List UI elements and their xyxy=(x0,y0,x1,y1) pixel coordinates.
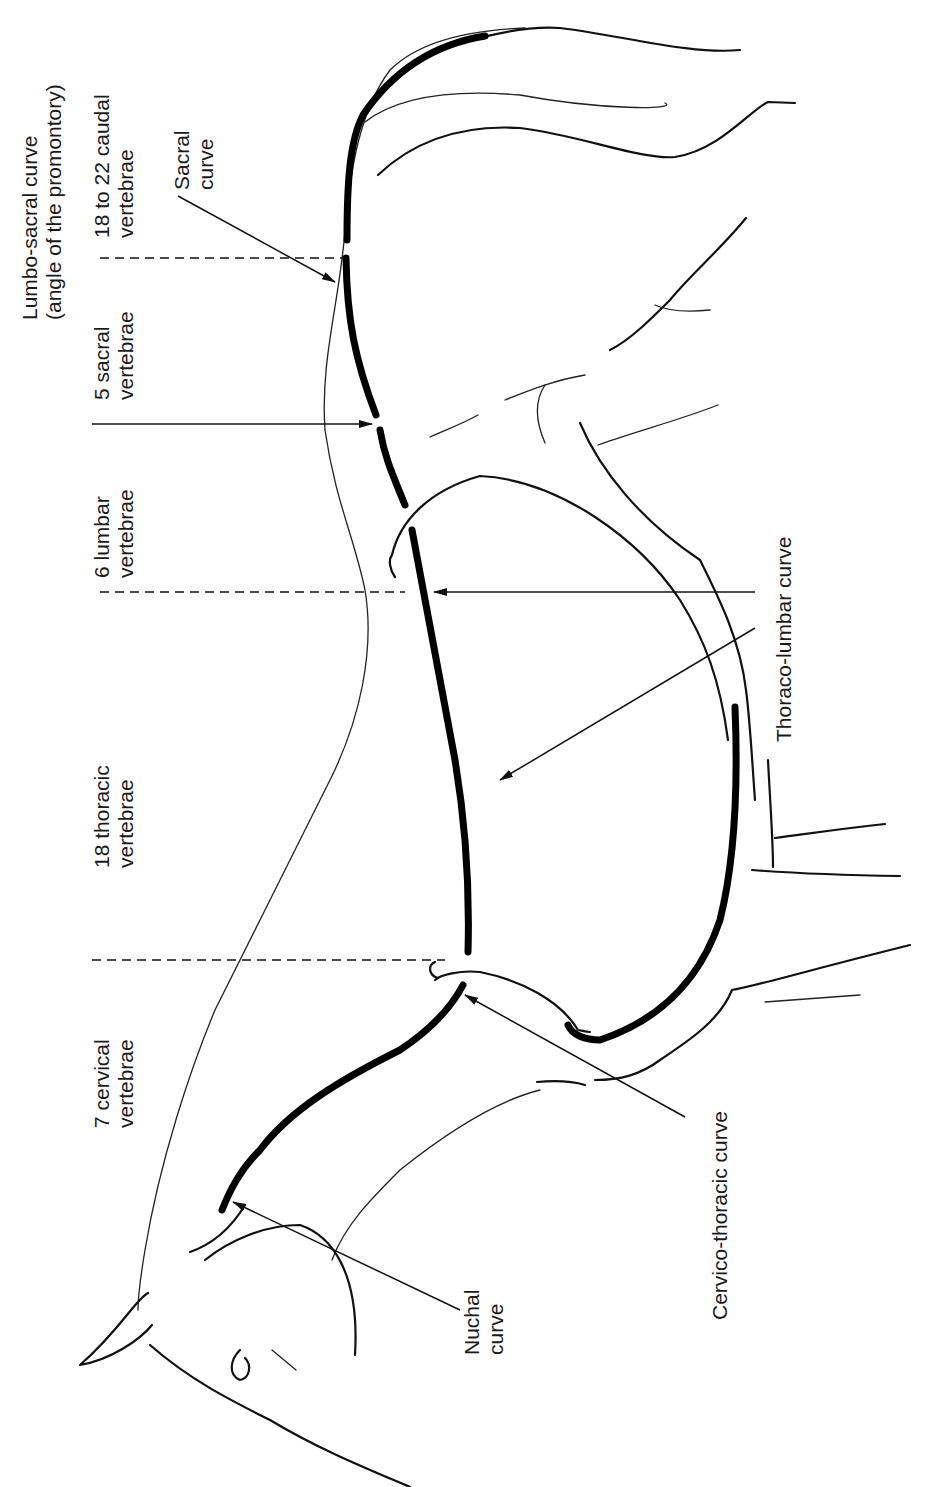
head-jaw-contour xyxy=(205,1225,356,1355)
shoulder-point xyxy=(430,962,438,978)
foreleg-top-line xyxy=(775,824,885,838)
lumbar-vertebrae xyxy=(380,430,405,505)
ribcage-curve xyxy=(568,707,736,1040)
label-cervical-vertebrae: 7 cervical vertebrae xyxy=(90,1039,138,1128)
arrow-sacral-curve xyxy=(178,196,335,282)
stifle-line xyxy=(505,375,585,400)
face-mark xyxy=(272,1350,296,1370)
eye xyxy=(232,1350,249,1380)
face-contour xyxy=(150,1345,410,1487)
label-thoraco-lumbar-curve: Thoraco-lumbar curve xyxy=(772,537,796,742)
label-sacral-curve: Sacral curve xyxy=(170,130,218,190)
horse-outline-drawing xyxy=(0,0,945,1487)
tail-contour-2 xyxy=(365,93,667,122)
caudal-vertebrae xyxy=(347,36,485,240)
sacral-vertebrae xyxy=(346,258,376,415)
belly-line xyxy=(768,760,773,867)
hind-leg-front xyxy=(580,423,755,800)
label-sacral-vertebrae: 5 sacral vertebrae xyxy=(90,311,138,400)
label-lumbar-vertebrae: 6 lumbar vertebrae xyxy=(90,489,138,578)
neck-ventral-contour xyxy=(332,1090,540,1260)
label-lumbo-sacral-curve: Lumbo-sacral curve (angle of the promont… xyxy=(18,84,66,320)
label-caudal-vertebrae: 18 to 22 caudal vertebrae xyxy=(90,94,138,238)
hind-leg-back xyxy=(610,218,746,350)
foreleg-base-line xyxy=(752,870,900,876)
cervical-vertebrae xyxy=(222,985,463,1210)
flank-line xyxy=(430,415,478,437)
poll-contour xyxy=(190,1205,245,1252)
hind-leg-front-upper xyxy=(598,405,718,445)
thoracolumbar-vertebrae xyxy=(412,530,468,952)
label-thoracic-vertebrae: 18 thoracic vertebrae xyxy=(90,765,138,868)
foreleg-back-1 xyxy=(765,995,860,1002)
stifle-curve xyxy=(538,385,546,443)
topline-contour xyxy=(138,28,525,1310)
point-of-shoulder xyxy=(537,1081,585,1085)
tail-contour-3 xyxy=(378,102,795,175)
chest-contour xyxy=(595,945,910,1080)
horse-spine-diagram: Lumbo-sacral curve (angle of the promont… xyxy=(0,0,945,1487)
label-nuchal-curve: Nuchal curve xyxy=(460,1290,508,1355)
ear xyxy=(80,1293,152,1365)
arrow-nuchal xyxy=(233,1202,460,1310)
label-cervico-thoracic-curve: Cervico-thoracic curve xyxy=(708,1111,732,1320)
arrow-thoraco-lumbar-2 xyxy=(500,628,755,780)
